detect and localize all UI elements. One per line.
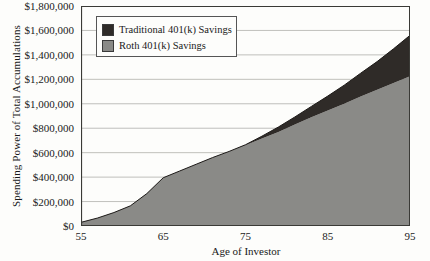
y-tick-label: $1,000,000: [2, 98, 74, 110]
legend-label-traditional: Traditional 401(k) Savings: [119, 24, 232, 35]
legend-item-traditional: Traditional 401(k) Savings: [102, 22, 231, 37]
y-tick-label: $1,800,000: [2, 0, 74, 12]
legend-label-roth: Roth 401(k) Savings: [119, 40, 206, 51]
chart-legend: Traditional 401(k) Savings Roth 401(k) S…: [96, 16, 237, 57]
y-tick-label: $800,000: [2, 122, 74, 134]
y-tick-label: $400,000: [2, 171, 74, 183]
y-tick-label: $200,000: [2, 196, 74, 208]
x-tick-label: 75: [240, 230, 251, 242]
x-tick-label: 55: [76, 230, 87, 242]
legend-item-roth: Roth 401(k) Savings: [102, 38, 231, 53]
y-tick-label: $600,000: [2, 147, 74, 159]
legend-swatch-roth: [102, 40, 114, 52]
y-tick-label: $0: [2, 220, 74, 232]
y-tick-label: $1,200,000: [2, 73, 74, 85]
x-axis-title: Age of Investor: [81, 245, 411, 257]
x-tick-label: 65: [158, 230, 169, 242]
y-tick-label: $1,600,000: [2, 24, 74, 36]
y-axis-tick-labels: $0$200,000$400,000$600,000$800,000$1,000…: [0, 0, 74, 261]
x-tick-label: 85: [322, 230, 333, 242]
legend-swatch-traditional: [102, 24, 114, 36]
chart-container: Spending Power of Total Accumulations $0…: [0, 0, 430, 261]
x-tick-label: 95: [405, 230, 416, 242]
y-tick-label: $1,400,000: [2, 49, 74, 61]
